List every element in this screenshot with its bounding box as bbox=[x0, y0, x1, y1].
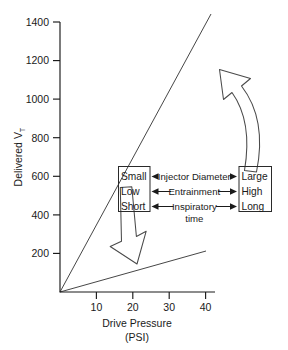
left-box-label: Small bbox=[121, 171, 146, 182]
y-tick-label: 1400 bbox=[26, 16, 50, 28]
left-box-label: Low bbox=[121, 186, 140, 197]
annotation-row-label-wrap: time bbox=[185, 213, 203, 224]
x-axis-title-text: Drive Pressure bbox=[102, 317, 172, 329]
annotation-row-label: Injector Diameter bbox=[158, 171, 232, 182]
y-axis-title-subscript: T bbox=[18, 127, 27, 132]
right-box-label: Long bbox=[242, 201, 265, 212]
y-axis-title-main: Delivered V bbox=[12, 132, 24, 186]
right-box-label: Large bbox=[242, 171, 268, 182]
chart-figure: 1400 1200 1000 800 600 400 200 10 20 30 … bbox=[0, 0, 288, 350]
x-tick-label: 20 bbox=[127, 301, 139, 313]
x-tick-label: 40 bbox=[200, 301, 212, 313]
right-box-label: High bbox=[242, 186, 263, 197]
y-tick-label: 800 bbox=[31, 132, 49, 144]
y-tick-label: 400 bbox=[31, 209, 49, 221]
x-axis-units-text: (PSI) bbox=[125, 331, 149, 343]
y-tick-label: 200 bbox=[31, 247, 49, 259]
annotation-row-label: Inspiratory bbox=[172, 201, 217, 212]
y-tick-label: 600 bbox=[31, 170, 49, 182]
annotation-row-injector-diameter: Injector Diameter bbox=[152, 171, 238, 182]
y-tick-label: 1200 bbox=[26, 54, 50, 66]
annotation-row-label: Entrainment bbox=[168, 186, 220, 197]
x-tick-label: 30 bbox=[163, 301, 175, 313]
y-tick-label: 1000 bbox=[26, 93, 50, 105]
x-tick-label: 10 bbox=[91, 301, 103, 313]
left-box-label: Short bbox=[121, 201, 146, 212]
